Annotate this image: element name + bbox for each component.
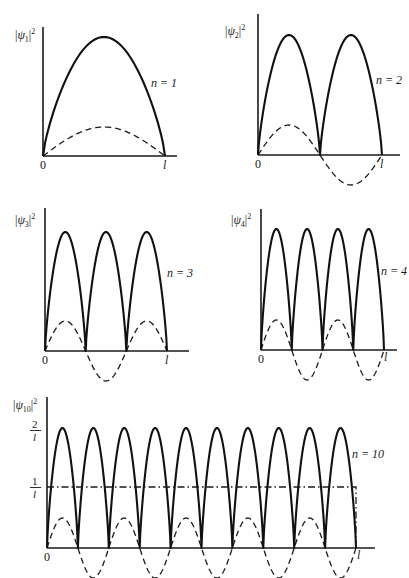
svg-text:l: l <box>33 431 36 443</box>
panel-n3-annotation: n = 3 <box>167 266 193 280</box>
panel-n10-xtick-l: l <box>357 548 361 562</box>
svg-text:1: 1 <box>32 475 38 487</box>
wavefunction-curve-dashed <box>43 127 165 156</box>
panel-n4-curves <box>261 209 397 380</box>
panel-n1-xtick-l: l <box>163 158 167 172</box>
panel-n10-curves <box>47 397 375 578</box>
panel-n4-annotation: n = 4 <box>381 264 407 278</box>
panel-n1-ylabel: |ψ1|2 <box>15 27 35 44</box>
panel-n1-annotation: n = 1 <box>151 76 177 90</box>
panel-n4: |ψ4|2 0 l n = 4 <box>231 209 407 380</box>
panel-n3-xtick-0: 0 <box>42 353 48 367</box>
panel-n10-ytick-2-over-l: 2 l <box>30 418 41 443</box>
panel-n2-xtick-l: l <box>380 157 384 171</box>
probability-density-curve <box>261 229 384 350</box>
panel-n1-xtick-0: 0 <box>40 158 46 172</box>
panel-n10-ytick-1-over-l: 1 l <box>30 475 41 500</box>
particle-in-box-figure: |ψ1|2 0 l n = 1 |ψ2|2 0 l n = 2 |ψ3|2 0 … <box>0 0 409 578</box>
probability-density-curve <box>45 232 167 351</box>
panel-n3-ylabel: |ψ3|2 <box>15 212 35 229</box>
panel-n4-xtick-0: 0 <box>258 352 264 366</box>
panel-n10-ylabel: |ψ10|2 <box>13 397 37 414</box>
panel-n1-curves <box>43 27 177 156</box>
svg-text:l: l <box>33 488 36 500</box>
panel-n3: |ψ3|2 0 l n = 3 <box>15 208 193 381</box>
panel-n3-xtick-l: l <box>165 353 169 367</box>
probability-density-curve <box>47 428 356 548</box>
panel-n2-annotation: n = 2 <box>376 73 402 87</box>
probability-density-curve <box>43 37 165 156</box>
panel-n2-curves <box>258 14 400 185</box>
panel-n10: |ψ10|2 2 l 1 l 0 l n = 10 <box>13 397 384 578</box>
panel-n10-xtick-0: 0 <box>44 550 50 564</box>
probability-density-curve <box>258 35 382 155</box>
panel-n2: |ψ2|2 0 l n = 2 <box>225 14 402 185</box>
figure-canvas: |ψ1|2 0 l n = 1 |ψ2|2 0 l n = 2 |ψ3|2 0 … <box>0 0 409 578</box>
panel-n4-xtick-l: l <box>384 350 388 364</box>
panel-n2-xtick-0: 0 <box>255 157 261 171</box>
svg-text:2: 2 <box>32 418 38 430</box>
panel-n4-ylabel: |ψ4|2 <box>231 212 251 229</box>
panel-n2-ylabel: |ψ2|2 <box>225 23 245 40</box>
panel-n1: |ψ1|2 0 l n = 1 <box>15 27 177 172</box>
panel-n10-annotation: n = 10 <box>352 447 384 461</box>
